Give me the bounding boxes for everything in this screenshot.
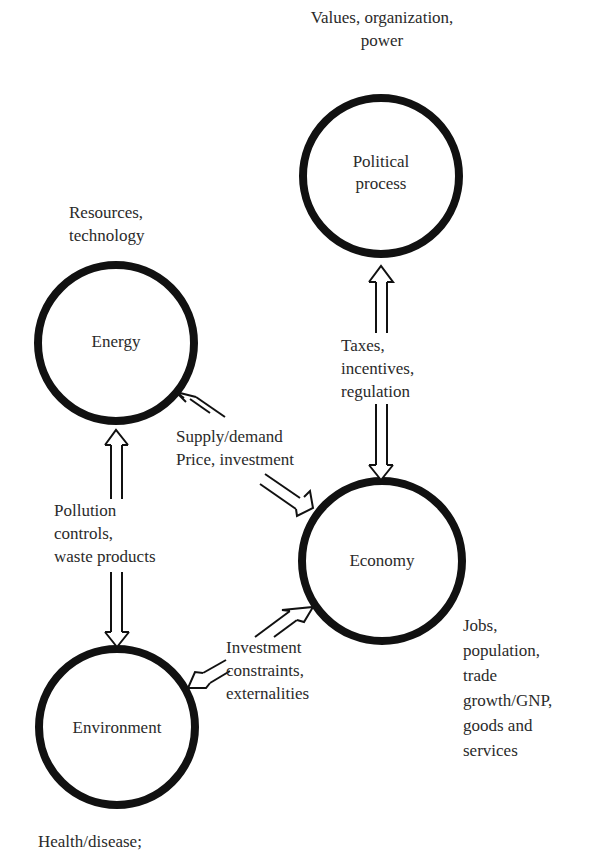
edge-label-line: constraints, [226, 659, 309, 682]
energy-annotation-line1: Resources, [69, 201, 145, 224]
economy-label: Economy [322, 550, 442, 572]
edge-label-line: Pollution [54, 499, 156, 522]
energy-label: Energy [56, 331, 176, 353]
political-process-label: Political process [321, 151, 441, 195]
political-annotation: Values, organization, power [290, 6, 474, 52]
edge-label-line: waste products [54, 545, 156, 568]
environment-annotation-line1: Health/disease; [38, 830, 142, 853]
political-economy-edge-label: Taxes, incentives, regulation [341, 334, 414, 403]
edge-label-line: Supply/demand [176, 425, 294, 448]
economy-environment-edge-label: Investment constraints, externalities [226, 636, 309, 705]
edge-label-line: Price, investment [176, 448, 294, 471]
edge-label-line: incentives, [341, 357, 414, 380]
edge-label-line: Investment [226, 636, 309, 659]
economy-annotation-line3: trade [463, 663, 552, 688]
economy-annotation-line4: growth/GNP, [463, 688, 552, 713]
edge-label-line: regulation [341, 380, 414, 403]
edge-label-line: externalities [226, 682, 309, 705]
political-annotation-line2: power [290, 29, 474, 52]
economy-annotation-line5: goods and [463, 713, 552, 738]
environment-label: Environment [52, 717, 182, 739]
economy-annotation: Jobs, population, trade growth/GNP, good… [463, 613, 552, 763]
political-label-line2: process [321, 173, 441, 195]
energy-environment-edge-label: Pollution controls, waste products [54, 499, 156, 568]
economy-annotation-line1: Jobs, [463, 613, 552, 638]
energy-annotation: Resources, technology [69, 201, 145, 247]
political-annotation-line1: Values, organization, [290, 6, 474, 29]
energy-economy-edge-label: Supply/demand Price, investment [176, 425, 294, 471]
political-label-line1: Political [321, 151, 441, 173]
energy-annotation-line2: technology [69, 224, 145, 247]
environment-annotation: Health/disease; [38, 830, 142, 853]
edge-label-line: controls, [54, 522, 156, 545]
edge-label-line: Taxes, [341, 334, 414, 357]
economy-annotation-line2: population, [463, 638, 552, 663]
economy-annotation-line6: services [463, 738, 552, 763]
